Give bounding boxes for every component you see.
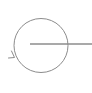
- circle-shape: [14, 19, 68, 73]
- diagram-canvas: ): [0, 0, 92, 93]
- diagram-svg: [0, 0, 92, 93]
- arrow-tick-icon: [9, 51, 15, 58]
